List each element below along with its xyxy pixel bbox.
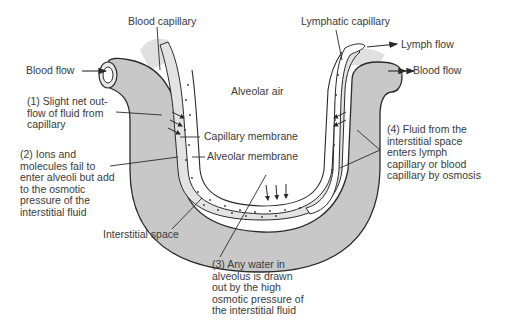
label-blood-flow-right: Blood flow [413,65,461,77]
step-3-text: (3) Any water in alveolus is drawn out b… [212,259,304,317]
leader-lymphatic-capillary [336,30,342,60]
label-lymphatic-capillary: Lymphatic capillary [301,16,390,28]
label-interstitial-space: Interstitial space [103,229,179,241]
label-blood-capillary: Blood capillary [128,16,196,28]
lymph-flow-arrow [367,44,397,47]
step-2-text: (2) Ions and molecules fail to enter alv… [20,149,115,218]
alveolar-membrane-line [192,52,342,206]
label-alveolar-membrane: Alveolar membrane [207,151,298,163]
step-4-text: (4) Fluid from the interstitial space en… [387,124,481,182]
label-alveolar-air: Alveolar air [231,86,284,98]
label-blood-flow-left: Blood flow [26,65,74,77]
step-1-text: (1) Slight net out- flow of fluid from c… [27,96,108,131]
label-capillary-membrane: Capillary membrane [204,131,298,143]
label-lymph-flow: Lymph flow [401,39,454,51]
